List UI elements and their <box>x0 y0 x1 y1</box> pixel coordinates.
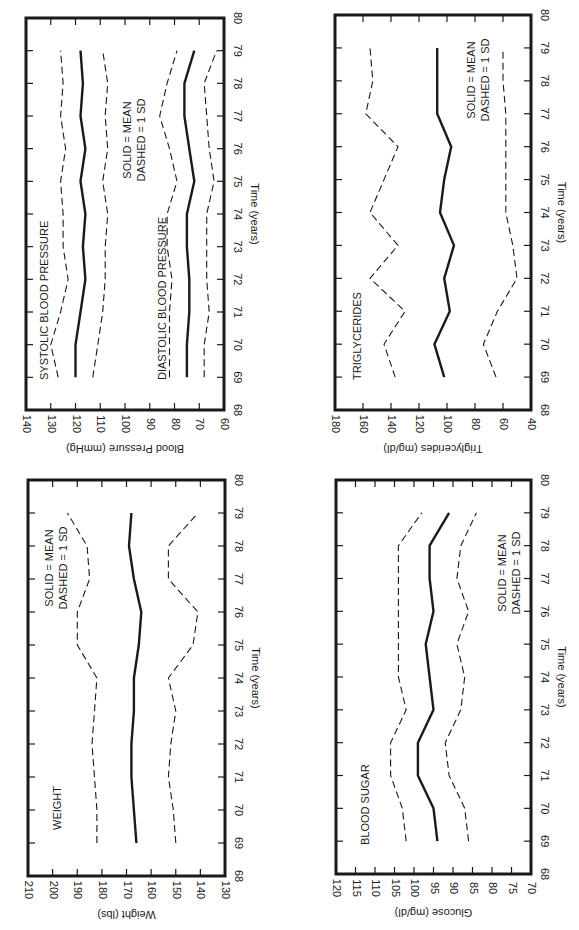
time-tick-label: 80 <box>539 474 551 486</box>
value-tick-label: 95 <box>429 882 441 894</box>
time-tick-label: 78 <box>539 540 551 552</box>
time-tick-label: 76 <box>539 605 551 617</box>
sd-line <box>445 513 476 841</box>
chart-annotation: BLOOD SUGAR <box>359 764 371 845</box>
value-tick-label: 80 <box>487 882 499 894</box>
time-tick-label: 73 <box>539 704 551 716</box>
value-tick-label: 110 <box>370 879 382 897</box>
blood-sugar-chart: 68697071727374757677787980Time (years)70… <box>0 0 579 930</box>
time-tick-label: 74 <box>539 671 551 683</box>
time-tick-label: 79 <box>539 507 551 519</box>
value-tick-label: 120 <box>331 879 343 897</box>
time-tick-label: 68 <box>539 868 551 880</box>
value-axis-label: Glucose (mg/dl) <box>395 907 473 919</box>
value-tick-label: 105 <box>390 879 402 897</box>
time-tick-label: 69 <box>539 835 551 847</box>
time-tick-label: 71 <box>539 769 551 781</box>
time-tick-label: 77 <box>539 572 551 584</box>
value-tick-label: 115 <box>351 879 363 897</box>
mean-line <box>418 513 449 841</box>
panel-blood-sugar: 68697071727374757677787980Time (years)70… <box>0 0 579 930</box>
value-tick-label: 85 <box>468 882 480 894</box>
value-tick-label: 100 <box>409 879 421 897</box>
time-axis-label: Time (years) <box>556 646 568 707</box>
time-tick-label: 72 <box>539 737 551 749</box>
chart-annotation: SOLID = MEAN <box>496 534 508 611</box>
sd-line <box>391 513 422 841</box>
time-tick-label: 70 <box>539 802 551 814</box>
value-tick-label: 75 <box>507 882 519 894</box>
value-tick-label: 70 <box>526 882 538 894</box>
time-tick-label: 75 <box>539 638 551 650</box>
value-tick-label: 90 <box>448 882 460 894</box>
chart-annotation: DASHED = 1 SD <box>510 532 522 615</box>
